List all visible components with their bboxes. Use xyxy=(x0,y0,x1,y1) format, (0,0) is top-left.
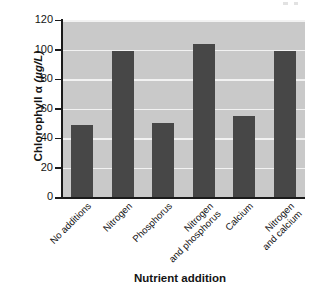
y-axis-tick-label: 40 xyxy=(13,132,53,143)
y-axis-title-symbol: α xyxy=(32,86,44,93)
y-axis-tick-label: 20 xyxy=(13,162,53,173)
y-axis-tick xyxy=(55,108,61,110)
y-axis-tick xyxy=(55,197,61,199)
bar xyxy=(193,44,215,197)
chart-figure: Chlorophyll α (µg/L) 020406080100120 No … xyxy=(0,0,315,293)
bar xyxy=(71,125,93,197)
y-axis-tick xyxy=(55,138,61,140)
x-axis-line xyxy=(55,197,305,199)
y-axis-tick-label: 120 xyxy=(13,14,53,25)
scan-artifact xyxy=(283,2,288,5)
bar-series xyxy=(62,20,305,197)
y-axis-tick-label: 0 xyxy=(13,191,53,202)
y-axis-tick-label: 60 xyxy=(13,103,53,114)
x-axis-title: Nutrient addition xyxy=(55,272,305,284)
y-axis-tick xyxy=(55,49,61,51)
y-axis-tick-label: 80 xyxy=(13,73,53,84)
bar xyxy=(233,116,255,197)
bar xyxy=(112,51,134,197)
y-axis-tick xyxy=(55,79,61,81)
bar xyxy=(152,123,174,197)
y-axis-tick xyxy=(55,20,61,22)
bar xyxy=(274,51,296,197)
y-axis-tick-label: 100 xyxy=(13,44,53,55)
y-axis-tick xyxy=(55,167,61,169)
scan-artifact xyxy=(294,2,298,5)
